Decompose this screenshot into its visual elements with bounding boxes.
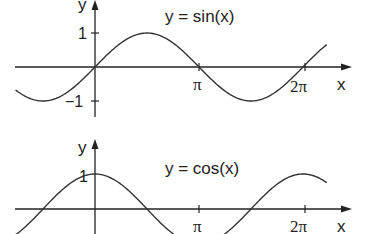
sin-title: y = sin(x) (165, 7, 234, 26)
cos-chart: y x 1 π 2π y = cos(x) (15, 138, 352, 234)
trig-graphs: y x 1 −1 π 2π y = sin(x) y x 1 π 2π y = … (0, 0, 369, 234)
cos-tick-label-pi: π (193, 217, 202, 234)
sin-y-label: y (78, 0, 87, 14)
cos-x-label: x (337, 217, 346, 234)
cos-y-label: y (78, 138, 87, 157)
sin-x-label: x (337, 75, 346, 94)
cos-x-arrow-icon (341, 206, 352, 213)
sin-tick-label-1: 1 (78, 25, 87, 42)
cos-tick-label-1: 1 (79, 168, 88, 185)
cos-title: y = cos(x) (165, 159, 239, 178)
sin-x-arrow-icon (341, 64, 352, 71)
cos-curve (16, 174, 327, 234)
sin-y-arrow-icon (92, 0, 99, 10)
cos-tick-label-2pi: 2π (290, 217, 308, 234)
sin-tick-label-neg1: −1 (65, 93, 83, 110)
cos-y-arrow-icon (92, 139, 99, 149)
sin-tick-label-pi: π (193, 75, 202, 94)
sin-chart: y x 1 −1 π 2π y = sin(x) (15, 0, 352, 117)
sin-tick-label-2pi: 2π (290, 77, 308, 96)
